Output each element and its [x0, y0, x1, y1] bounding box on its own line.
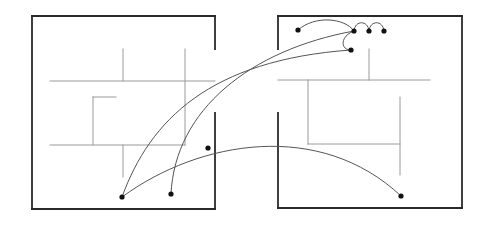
node-dot [351, 28, 356, 33]
node-dot [381, 28, 386, 33]
inner-partitions [50, 49, 430, 177]
node-dot [168, 191, 173, 196]
path-nodes [119, 27, 403, 199]
connection-path [122, 50, 351, 197]
node-dot [205, 145, 210, 150]
room-walls [32, 16, 462, 209]
node-dot [348, 47, 353, 52]
node-dot [398, 193, 403, 198]
connection-path [298, 20, 354, 31]
connection-path [122, 146, 401, 197]
connection-path [343, 31, 354, 50]
connection-paths [122, 20, 401, 197]
connection-path [171, 31, 354, 194]
node-dot [295, 27, 300, 32]
node-dot [119, 194, 124, 199]
node-dot [366, 28, 371, 33]
diagram-svg [0, 0, 490, 225]
floorplan-diagram [0, 0, 490, 225]
